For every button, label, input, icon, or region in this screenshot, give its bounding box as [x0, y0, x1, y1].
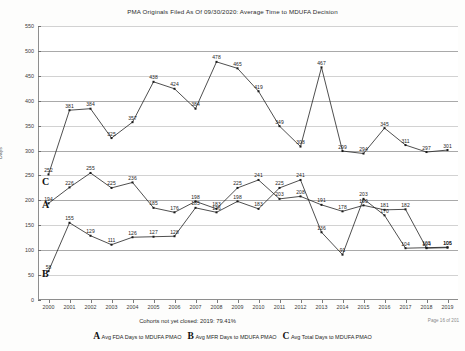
x-tick-label: 2000 — [43, 304, 55, 310]
data-label: 191 — [317, 197, 325, 203]
data-point — [237, 200, 239, 202]
cohort-note: Cohorts not yet closed: 2019: 79.41% — [0, 318, 375, 324]
y-tick-mark — [38, 225, 41, 226]
data-label: 255 — [86, 165, 94, 171]
x-tick-label: 2006 — [169, 304, 181, 310]
data-label: 419 — [254, 84, 262, 90]
data-label: 384 — [191, 101, 199, 107]
x-tick-mark — [112, 300, 113, 303]
data-label: 311 — [402, 138, 410, 144]
data-point — [174, 235, 176, 237]
data-label: 297 — [422, 145, 430, 151]
data-point — [111, 244, 113, 246]
data-label: 104 — [422, 241, 430, 247]
y-axis-label: Days — [0, 147, 3, 159]
data-label: 181 — [380, 202, 388, 208]
series-marker-c: C — [42, 176, 49, 187]
data-point — [384, 214, 386, 216]
x-tick-mark — [196, 300, 197, 303]
data-label: 252 — [44, 167, 52, 173]
data-label: 91 — [340, 247, 346, 253]
legend-item-c: C Avg Total Days to MDUFA PMAO — [283, 331, 372, 341]
data-point — [426, 247, 428, 249]
y-tick-mark — [38, 175, 41, 176]
data-point — [132, 236, 134, 238]
x-tick-mark — [343, 300, 344, 303]
x-tick-label: 2015 — [358, 304, 370, 310]
data-label: 241 — [296, 172, 304, 178]
y-tick-label: 0 — [8, 297, 34, 303]
data-label: 225 — [275, 180, 283, 186]
data-label: 349 — [275, 119, 283, 125]
data-point — [132, 181, 134, 183]
x-tick-label: 2018 — [421, 304, 433, 310]
x-tick-label: 2005 — [148, 304, 160, 310]
data-label: 127 — [149, 229, 157, 235]
y-tick-mark — [38, 26, 41, 27]
data-point — [111, 137, 113, 139]
data-point — [342, 210, 344, 212]
data-point — [342, 254, 344, 256]
data-point — [405, 247, 407, 249]
x-tick-mark — [259, 300, 260, 303]
y-tick-label: 450 — [8, 73, 34, 79]
data-label: 381 — [65, 103, 73, 109]
legend-item-b: B Avg MFR Days to MDUFA PMAO — [188, 331, 277, 341]
x-tick-mark — [154, 300, 155, 303]
data-label: 225 — [107, 180, 115, 186]
data-point — [447, 149, 449, 151]
data-point — [363, 153, 365, 155]
data-point — [279, 187, 281, 189]
y-tick-label: 350 — [8, 123, 34, 129]
data-label: 105 — [443, 240, 451, 246]
series-line-c — [49, 62, 448, 175]
data-label: 299 — [338, 144, 346, 150]
y-tick-label: 250 — [8, 172, 34, 178]
data-point — [153, 207, 155, 209]
y-tick-mark — [38, 200, 41, 201]
data-point — [216, 211, 218, 213]
data-label: 226 — [65, 180, 73, 186]
y-tick-mark — [38, 101, 41, 102]
data-label: 424 — [170, 81, 178, 87]
data-point — [384, 127, 386, 129]
data-label: 465 — [233, 61, 241, 67]
legend-key-b: B — [188, 331, 194, 341]
y-tick-label: 300 — [8, 148, 34, 154]
data-point — [69, 186, 71, 188]
x-tick-label: 2017 — [400, 304, 412, 310]
x-tick-label: 2016 — [379, 304, 391, 310]
data-label: 203 — [359, 191, 367, 197]
x-tick-label: 2007 — [190, 304, 202, 310]
data-point — [90, 235, 92, 237]
data-point — [405, 144, 407, 146]
data-label: 478 — [212, 54, 220, 60]
page-number: Page 16 of 201 — [428, 318, 459, 323]
data-point — [132, 121, 134, 123]
y-tick-mark — [38, 151, 41, 152]
x-tick-label: 2011 — [274, 304, 285, 310]
x-tick-label: 2001 — [64, 304, 76, 310]
data-label: 185 — [191, 200, 199, 206]
data-label: 182 — [401, 202, 409, 208]
y-tick-label: 550 — [8, 23, 34, 29]
data-point — [237, 187, 239, 189]
data-point — [90, 108, 92, 110]
data-label: 345 — [380, 121, 388, 127]
data-label: 241 — [254, 172, 262, 178]
data-label: 176 — [170, 205, 178, 211]
data-point — [69, 222, 71, 224]
legend-label-b: Avg MFR Days to MDUFA PMAO — [195, 334, 276, 340]
data-point — [195, 207, 197, 209]
data-point — [258, 179, 260, 181]
data-point — [321, 66, 323, 68]
data-label: 294 — [359, 146, 367, 152]
y-tick-label: 400 — [8, 98, 34, 104]
data-point — [90, 172, 92, 174]
data-point — [279, 198, 281, 200]
data-point — [153, 236, 155, 238]
y-tick-mark — [38, 300, 41, 301]
data-label: 357 — [128, 115, 136, 121]
x-tick-label: 2012 — [295, 304, 307, 310]
data-label: 308 — [296, 139, 304, 145]
